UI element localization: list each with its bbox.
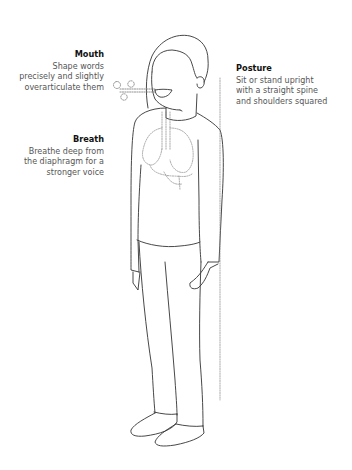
head-icon bbox=[146, 35, 208, 120]
breath-puffs-icon bbox=[114, 81, 156, 100]
lungs-icon bbox=[142, 112, 193, 190]
person-figure-illustration bbox=[0, 0, 352, 470]
torso-icon bbox=[131, 108, 223, 290]
legs-icon bbox=[131, 242, 204, 446]
